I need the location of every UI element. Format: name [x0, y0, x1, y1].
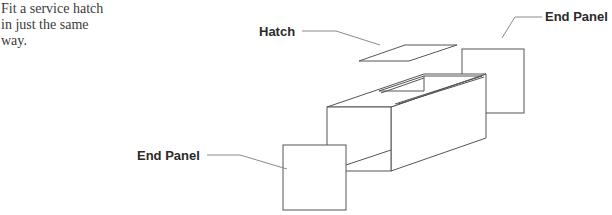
- end-panel-right-label: End Panel: [545, 9, 608, 24]
- end-panel-left-label: End Panel: [137, 148, 200, 163]
- hatch: [359, 45, 457, 61]
- box-body: [327, 74, 486, 171]
- hatch-label: Hatch: [259, 24, 295, 39]
- hatch-leader: [302, 31, 380, 45]
- assembly-diagram: [0, 0, 612, 215]
- end-panel-right-leader: [502, 17, 542, 38]
- end-panel-left-leader: [207, 155, 287, 169]
